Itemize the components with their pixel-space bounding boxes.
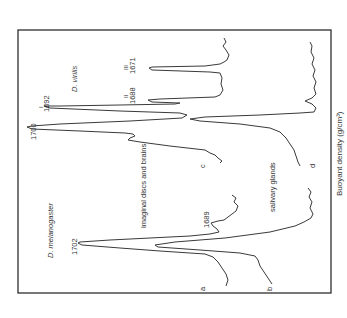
label-peak-1700: 1700 — [29, 123, 38, 140]
label-peak-1688: 1688 — [128, 87, 137, 104]
label-peak-1692: 1692 — [42, 95, 51, 112]
label-d-virilis: D. virilis — [70, 66, 79, 92]
label-salivary-glands: salivary glands — [268, 162, 277, 212]
label-d-melanogaster: D. melanogaster — [46, 202, 55, 258]
label-imaginal-discs: imaginal discs and brains — [139, 144, 148, 228]
label-peak-1671: 1671 — [128, 57, 137, 74]
chart-frame — [18, 30, 331, 293]
label-trace-d: d — [308, 164, 317, 168]
chart-svg: D. virilis 1700 I 1692 II 1688 III 1671 … — [0, 0, 347, 318]
axis-label-buoyant-density: Buoyant density (g/cm³) — [335, 111, 344, 196]
trace-a — [78, 195, 238, 286]
trace-d — [190, 42, 316, 166]
density-gradient-figure: D. virilis 1700 I 1692 II 1688 III 1671 … — [0, 0, 347, 318]
label-trace-a: a — [198, 286, 207, 291]
label-peak-1689: 1689 — [202, 211, 211, 228]
label-trace-b: b — [265, 287, 274, 291]
label-trace-c: c — [198, 164, 207, 168]
label-peak-1702: 1702 — [70, 238, 79, 255]
